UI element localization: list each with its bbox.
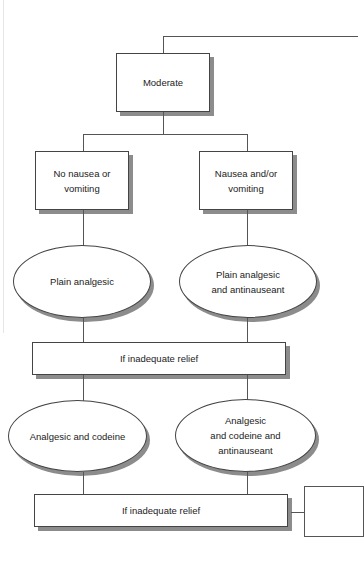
connector-top-horizontal xyxy=(163,36,358,37)
connector-no-nausea-to-plain xyxy=(83,210,84,246)
connector-codeine-to-relief2 xyxy=(83,472,84,494)
plain-analgesic-antinauseant-label: Plain analgesic and antinauseant xyxy=(212,267,285,297)
connector-left-down xyxy=(83,134,84,151)
plain-analgesic-antinauseant-node: Plain analgesic and antinauseant xyxy=(179,245,317,318)
connector-relief2-right xyxy=(291,512,304,513)
moderate-label: Moderate xyxy=(143,75,183,90)
inadequate-relief-node-1: If inadequate relief xyxy=(32,342,286,375)
nausea-label: Nausea and/or vomiting xyxy=(215,166,277,196)
no-nausea-node: No nausea or vomiting xyxy=(35,151,129,210)
connector-plain-antinauseant-to-relief1 xyxy=(247,318,248,342)
next-step-node-partial xyxy=(304,486,364,537)
analgesic-codeine-antinauseant-node: Analgesic and codeine and antinauseant xyxy=(175,399,316,472)
inadequate-relief-label-2: If inadequate relief xyxy=(122,503,200,518)
connector-moderate-down xyxy=(163,112,164,134)
connector-split-horizontal xyxy=(83,134,248,135)
connector-plain-to-relief1 xyxy=(83,318,84,342)
plain-analgesic-label: Plain analgesic xyxy=(50,274,114,289)
connector-codeine-antinauseant-to-relief2 xyxy=(247,472,248,494)
connector-right-down xyxy=(247,134,248,151)
analgesic-codeine-label: Analgesic and codeine xyxy=(30,429,126,444)
inadequate-relief-node-2: If inadequate relief xyxy=(34,494,288,527)
plain-analgesic-node: Plain analgesic xyxy=(13,245,151,318)
connector-relief1-to-codeine xyxy=(83,375,84,401)
inadequate-relief-label-1: If inadequate relief xyxy=(120,351,198,366)
no-nausea-label: No nausea or vomiting xyxy=(53,166,110,196)
connector-nausea-to-plain-antinauseant xyxy=(247,210,248,246)
page-edge-line xyxy=(3,0,4,333)
nausea-node: Nausea and/or vomiting xyxy=(199,151,293,210)
connector-relief1-to-codeine-antinauseant xyxy=(247,375,248,400)
analgesic-codeine-antinauseant-label: Analgesic and codeine and antinauseant xyxy=(210,413,280,458)
connector-top-vertical xyxy=(163,36,164,53)
moderate-node: Moderate xyxy=(116,53,210,112)
analgesic-codeine-node: Analgesic and codeine xyxy=(8,400,147,472)
